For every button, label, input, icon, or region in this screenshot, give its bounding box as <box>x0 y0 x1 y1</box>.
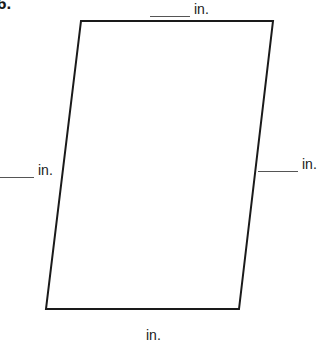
top-side-label: in. <box>150 1 209 17</box>
right-side-answer-blank[interactable] <box>258 159 298 172</box>
bottom-side-label: in. <box>146 327 161 343</box>
bottom-side-unit: in. <box>146 327 161 343</box>
left-side-answer-blank[interactable] <box>0 165 34 178</box>
left-side-label: in. <box>0 162 53 178</box>
right-side-label: in. <box>258 156 317 172</box>
top-side-answer-blank[interactable] <box>150 4 190 17</box>
top-side-unit: in. <box>194 1 209 17</box>
parallelogram-outline <box>46 21 273 309</box>
right-side-unit: in. <box>302 156 317 172</box>
left-side-unit: in. <box>38 162 53 178</box>
